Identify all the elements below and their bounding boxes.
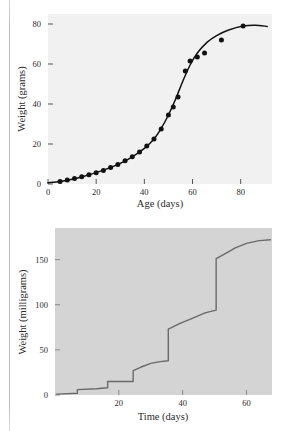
data-point-marker bbox=[176, 95, 181, 100]
data-point-marker bbox=[115, 162, 120, 167]
data-point-marker bbox=[108, 165, 113, 170]
data-point-marker bbox=[151, 137, 156, 142]
data-point-marker bbox=[101, 168, 106, 173]
y-axis-title: Weight (grams) bbox=[16, 66, 28, 132]
x-tick-label: 80 bbox=[236, 187, 245, 197]
x-tick-label: 20 bbox=[92, 187, 101, 197]
data-point-marker bbox=[183, 69, 188, 74]
x-tick-label: 0 bbox=[46, 187, 50, 197]
plot-background bbox=[48, 14, 272, 184]
data-point-marker bbox=[202, 51, 207, 56]
data-point-marker bbox=[58, 179, 63, 184]
data-point-marker bbox=[65, 178, 70, 183]
data-point-marker bbox=[159, 127, 164, 132]
data-point-marker bbox=[144, 144, 149, 149]
figure-page: 020406080 020406080 Age (days) Weight (g… bbox=[0, 0, 283, 431]
y-tick-label: 0 bbox=[37, 179, 41, 189]
molt-step-curve-panel: 050100150 204060 Time (days) Weight (mil… bbox=[0, 215, 283, 431]
molt-step-curve-chart: 050100150 204060 Time (days) Weight (mil… bbox=[0, 215, 283, 431]
x-tick-label: 60 bbox=[242, 398, 251, 408]
data-point-marker bbox=[137, 150, 142, 155]
x-tick-label: 60 bbox=[188, 187, 197, 197]
x-axis-title: Age (days) bbox=[137, 198, 184, 210]
y-tick-label: 100 bbox=[35, 300, 48, 310]
y-tick-label: 50 bbox=[40, 345, 49, 355]
x-tick-label: 40 bbox=[140, 187, 149, 197]
x-tick-label: 40 bbox=[178, 398, 187, 408]
data-point-marker bbox=[195, 55, 200, 60]
y-axis-title: Weight (milligrams) bbox=[17, 269, 29, 355]
y-tick-label: 20 bbox=[33, 139, 42, 149]
data-point-marker bbox=[241, 24, 246, 29]
data-point-marker bbox=[130, 154, 135, 159]
data-point-marker bbox=[188, 59, 193, 64]
growth-curve-panel: 020406080 020406080 Age (days) Weight (g… bbox=[0, 0, 283, 215]
data-point-marker bbox=[123, 158, 128, 163]
x-axis-title: Time (days) bbox=[138, 411, 189, 423]
y-tick-label: 80 bbox=[33, 19, 42, 29]
plot-background bbox=[55, 228, 272, 395]
y-tick-label: 60 bbox=[33, 59, 42, 69]
data-point-marker bbox=[72, 176, 77, 181]
data-point-marker bbox=[79, 174, 84, 179]
data-point-marker bbox=[171, 105, 176, 110]
data-point-marker bbox=[219, 38, 224, 43]
y-tick-label: 0 bbox=[44, 390, 48, 400]
data-point-marker bbox=[86, 172, 91, 177]
growth-curve-chart: 020406080 020406080 Age (days) Weight (g… bbox=[0, 0, 283, 215]
y-tick-label: 40 bbox=[33, 99, 42, 109]
x-tick-label: 20 bbox=[115, 398, 124, 408]
data-point-marker bbox=[94, 170, 99, 175]
data-point-marker bbox=[166, 113, 171, 118]
y-tick-label: 150 bbox=[35, 255, 48, 265]
